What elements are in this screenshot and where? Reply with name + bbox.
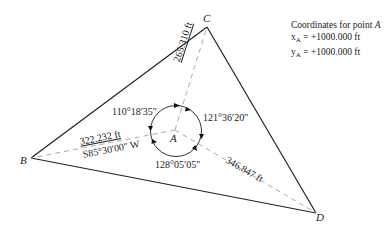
arrow-icon <box>152 139 158 144</box>
arrow-icon <box>174 103 180 108</box>
point-D-label: D <box>316 212 324 222</box>
coordinates-title: Coordinates for point A <box>291 19 380 31</box>
arrow-icon <box>148 126 153 131</box>
coordinate-x: xA = +1000.000 ft <box>291 31 380 46</box>
coordinates-box: Coordinates for point A xA = +1000.000 f… <box>291 19 380 61</box>
point-A-label: A <box>170 133 177 143</box>
point-B-label: B <box>20 155 27 165</box>
point-C-label: C <box>203 13 210 23</box>
arrow-icon <box>199 134 204 139</box>
coordinate-y: yA = +1000.000 ft <box>291 46 380 61</box>
angle-CAD: 121°36′20″ <box>203 113 248 123</box>
angle-BAC: 110°18′35″ <box>112 107 157 117</box>
angle-DAB: 128°05′05″ <box>155 160 200 170</box>
